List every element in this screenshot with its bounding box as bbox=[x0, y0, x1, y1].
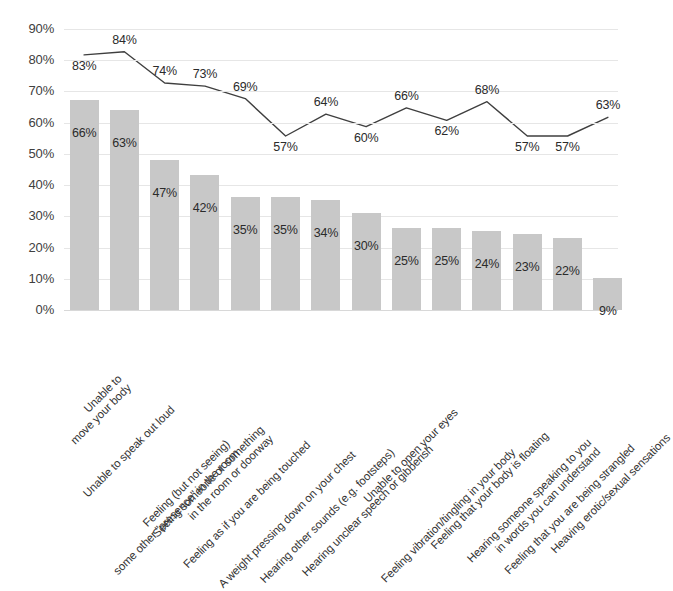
bar bbox=[432, 228, 461, 310]
gridline bbox=[64, 154, 618, 155]
line-value-label: 83% bbox=[64, 59, 104, 73]
bar bbox=[352, 213, 381, 310]
line-value-label: 62% bbox=[427, 124, 467, 138]
bar bbox=[190, 175, 219, 310]
bar-value-label: 35% bbox=[225, 223, 265, 237]
y-axis-tick-label: 30% bbox=[0, 208, 54, 223]
x-axis-tick-label-line: Heaving erotic/sexual sensations bbox=[548, 431, 673, 556]
x-axis-tick-label-line: Seeing someone or something bbox=[150, 423, 267, 540]
line-value-label: 74% bbox=[145, 64, 185, 78]
bar-value-label: 9% bbox=[588, 304, 628, 318]
bar-value-label: 23% bbox=[507, 260, 547, 274]
bar-value-label: 35% bbox=[265, 223, 305, 237]
line-value-label: 84% bbox=[104, 33, 144, 47]
x-axis-tick-label-line: Hearing unclear speech or gibberish bbox=[300, 443, 436, 579]
line-value-label: 66% bbox=[386, 89, 426, 103]
bar-value-label: 25% bbox=[386, 254, 426, 268]
y-axis-tick-label: 80% bbox=[0, 52, 54, 67]
y-axis-tick-label: 20% bbox=[0, 240, 54, 255]
bar-value-label: 25% bbox=[427, 254, 467, 268]
bar-value-label: 22% bbox=[547, 264, 587, 278]
line-value-label: 64% bbox=[306, 95, 346, 109]
line-value-label: 68% bbox=[467, 83, 507, 97]
gridline bbox=[64, 123, 618, 124]
bar bbox=[392, 228, 421, 310]
y-axis-tick-label: 0% bbox=[0, 302, 54, 317]
y-axis-tick-label: 50% bbox=[0, 146, 54, 161]
x-axis-tick-label-line: Unable to open your eyes bbox=[362, 406, 461, 505]
y-axis-tick-label: 10% bbox=[0, 271, 54, 286]
bar-value-label: 24% bbox=[467, 257, 507, 271]
bar-value-label: 66% bbox=[64, 126, 104, 140]
line-value-label: 57% bbox=[507, 140, 547, 154]
y-axis-tick-label: 60% bbox=[0, 115, 54, 130]
line-value-label: 57% bbox=[547, 140, 587, 154]
x-axis-tick-label: Hearing unclear speech or gibberish bbox=[300, 443, 436, 579]
gridline bbox=[64, 60, 618, 61]
line-value-label: 69% bbox=[225, 80, 265, 94]
line-value-label: 60% bbox=[346, 131, 386, 145]
bar-value-label: 34% bbox=[306, 226, 346, 240]
x-axis-tick-label: Unable tomove your body bbox=[59, 372, 134, 447]
bar-value-label: 42% bbox=[185, 201, 225, 215]
x-axis-tick-label: Heaving erotic/sexual sensations bbox=[548, 431, 673, 556]
x-axis-tick-label: Unable to open your eyes bbox=[362, 406, 461, 505]
gridline bbox=[64, 216, 618, 217]
gridline bbox=[64, 29, 618, 30]
bar bbox=[271, 197, 300, 310]
line-value-label: 63% bbox=[588, 98, 628, 112]
y-axis-tick-label: 70% bbox=[0, 83, 54, 98]
y-axis-tick-label: 40% bbox=[0, 177, 54, 192]
line-value-label: 73% bbox=[185, 67, 225, 81]
y-axis-tick-label: 90% bbox=[0, 21, 54, 36]
bar-value-label: 47% bbox=[145, 186, 185, 200]
axis-baseline bbox=[64, 310, 618, 311]
gridline bbox=[64, 91, 618, 92]
bar bbox=[150, 160, 179, 310]
bar-value-label: 63% bbox=[104, 136, 144, 150]
line-value-label: 57% bbox=[265, 140, 305, 154]
bar bbox=[311, 200, 340, 310]
bar-value-label: 30% bbox=[346, 239, 386, 253]
bar bbox=[231, 197, 260, 310]
